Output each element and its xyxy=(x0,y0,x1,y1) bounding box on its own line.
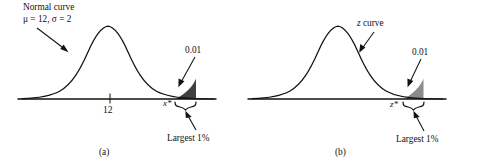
curve-label-a-line1: Normal curve xyxy=(23,2,74,13)
brace-label-a: Largest 1% xyxy=(167,133,209,144)
tail-brace-b xyxy=(403,102,424,110)
leader-arrow-tail-area-a xyxy=(178,57,195,87)
normal-curve-a xyxy=(22,26,214,99)
curve-params-label-a: μ = 12, σ = 2 xyxy=(23,14,71,25)
tail-brace-a xyxy=(175,102,196,110)
panel-caption-b: (b) xyxy=(335,147,346,158)
leader-arrow-brace-b xyxy=(413,111,424,131)
leader-arrow-brace-a xyxy=(185,111,196,130)
tail-area-label-a: 0.01 xyxy=(185,45,201,56)
leader-arrow-tail-area-b xyxy=(407,59,421,87)
shaded-tail-region-b xyxy=(404,79,424,100)
brace-label-b: Largest 1% xyxy=(396,134,438,145)
panel-a xyxy=(18,26,216,130)
leader-arrow-normal-curve xyxy=(37,28,69,52)
panel-b xyxy=(248,26,446,131)
mean-tick-label-a: 12 xyxy=(103,104,113,115)
critical-value-label-b: z* xyxy=(390,99,398,110)
z-curve-b xyxy=(252,26,443,99)
leader-arrow-z-curve xyxy=(359,32,374,53)
panel-caption-a: (a) xyxy=(99,147,109,158)
tail-area-label-b: 0.01 xyxy=(412,47,428,58)
curve-label-b-line1: z curve xyxy=(357,18,384,29)
critical-value-label-a: x* xyxy=(163,98,172,109)
